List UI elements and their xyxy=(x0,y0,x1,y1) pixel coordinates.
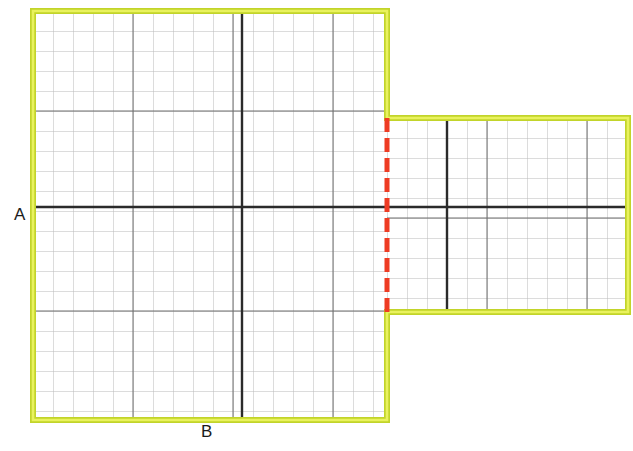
main-room-grid xyxy=(33,11,387,420)
right-extension-group xyxy=(387,118,628,312)
diagram-canvas xyxy=(0,0,633,451)
axis-a-label: A xyxy=(14,206,26,223)
right-extension-grid xyxy=(387,118,628,312)
main-room-group xyxy=(33,11,387,420)
floorplan-svg xyxy=(0,0,633,451)
axis-b-label: B xyxy=(201,423,213,440)
